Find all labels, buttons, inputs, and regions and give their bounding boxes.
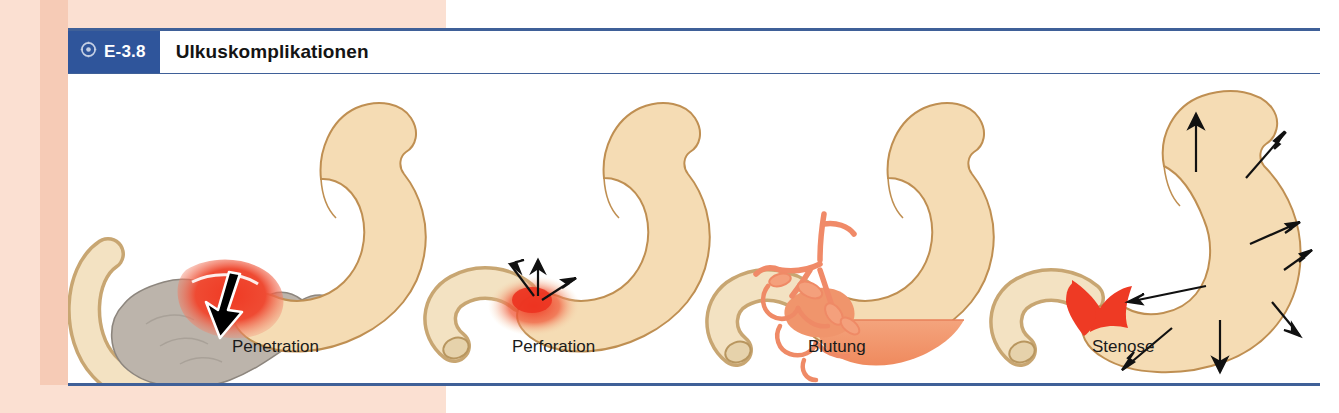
panel-perforation [440, 103, 710, 362]
target-dot-icon [80, 41, 97, 63]
page-margin-left-accent [40, 0, 68, 413]
cardia-notch-2 [604, 178, 619, 218]
figure-number-label: E-3.8 [104, 42, 146, 62]
panel-stenose [1006, 91, 1312, 372]
cardia-notch-3 [888, 178, 903, 218]
panel-label-stenose: Stenose [1092, 337, 1154, 357]
panel-label-perforation: Perforation [512, 337, 595, 357]
figure-number-badge: E-3.8 [68, 31, 160, 73]
page-margin-bottom [0, 385, 446, 413]
figure-page: E-3.8 Ulkuskomplikationen [0, 0, 1339, 413]
cardia-notch-1 [321, 179, 336, 218]
perforation-hole [512, 287, 552, 313]
stomach-shape-4 [1082, 91, 1301, 372]
figure-header: E-3.8 Ulkuskomplikationen [68, 31, 385, 73]
panel-label-blutung: Blutung [808, 337, 866, 357]
rule-bottom [68, 383, 1320, 386]
figure-title: Ulkuskomplikationen [160, 31, 385, 73]
panel-label-penetration: Penetration [232, 337, 319, 357]
